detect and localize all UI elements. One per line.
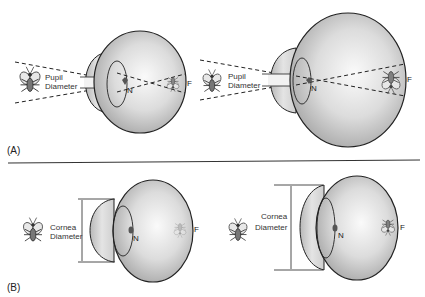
measure-label-line1: Pupil — [45, 73, 63, 82]
panel-a: Pupil Diameter N F Pupil Diameter N F (A… — [7, 13, 412, 156]
measure-label-line2: Diameter — [45, 82, 78, 91]
measure-label-line1: Pupil — [228, 72, 246, 81]
focal-label: F — [407, 75, 412, 84]
nodal-point — [129, 227, 134, 234]
panel-label-b: (B) — [7, 282, 20, 293]
measure-label-line1: Cornea — [50, 223, 77, 232]
eye-optics-diagram: Pupil Diameter N F Pupil Diameter N F (A… — [0, 0, 425, 297]
eye-small-cornea: Cornea Diameter N F — [21, 180, 199, 282]
panel-label-a: (A) — [7, 145, 20, 156]
object-bug-icon — [227, 218, 249, 240]
nodal-label: N — [133, 234, 139, 243]
measure-label-line2: Diameter — [228, 81, 261, 90]
object-bug-icon — [21, 218, 44, 241]
panel-b: Cornea Diameter N F Cornea Diameter N F … — [7, 176, 405, 293]
panel-divider — [8, 160, 420, 163]
focal-label: F — [400, 223, 405, 232]
nodal-label: N — [338, 231, 344, 240]
nodal-point — [333, 225, 338, 232]
measure-label-line2: Diameter — [50, 232, 83, 241]
object-bug-icon — [201, 69, 223, 91]
measure-label-line1: Cornea — [261, 212, 288, 221]
nodal-label: N — [127, 86, 133, 95]
eye-small-pupil: Pupil Diameter N F — [15, 31, 192, 133]
eye-large-pupil: Pupil Diameter N F — [200, 13, 412, 147]
focal-label: F — [187, 79, 192, 88]
nodal-label: N — [311, 84, 317, 93]
focal-label: F — [194, 225, 199, 234]
object-bug-icon — [18, 67, 42, 92]
cornea — [90, 199, 114, 262]
eye-large-cornea: Cornea Diameter N F — [227, 176, 405, 280]
measure-label-line2: Diameter — [255, 223, 288, 232]
